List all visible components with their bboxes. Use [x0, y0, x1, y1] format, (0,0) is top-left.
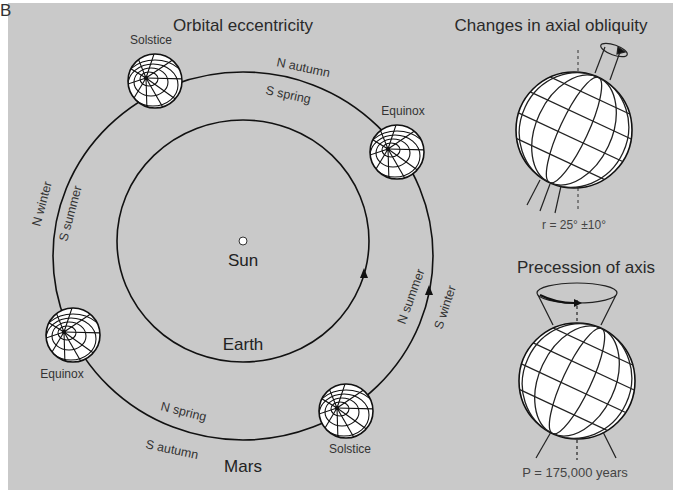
- season-s-summer: S summer: [56, 184, 84, 243]
- obliquity-formula: r = 25° ±10°: [542, 218, 606, 232]
- solstice-top-label: Solstice: [130, 33, 172, 47]
- season-n-spring: N spring: [159, 399, 208, 424]
- solstice-globe-bottom: [313, 381, 379, 446]
- precession-globe: [489, 299, 665, 463]
- equinox-globe-right: [364, 122, 430, 187]
- equinox-right-label: Equinox: [381, 104, 424, 118]
- obliquity-wobble-cylinder: [595, 41, 629, 80]
- solstice-bottom-label: Solstice: [329, 442, 371, 456]
- season-n-winter: N winter: [29, 180, 54, 228]
- precession-arrow-icon: [574, 299, 582, 307]
- axial-obliquity-title: Changes in axial obliquity: [455, 16, 648, 35]
- equinox-left-label: Equinox: [40, 367, 83, 381]
- orbital-eccentricity-section: Orbital eccentricity Sun Earth Mars Sols…: [29, 16, 458, 476]
- earth-orbit-arrow-icon: [360, 268, 368, 278]
- precession-formula: P = 175,000 years: [522, 465, 628, 480]
- earth-label: Earth: [223, 335, 264, 354]
- precession-section: Precession of axis P = 175,000 years: [489, 258, 665, 480]
- season-s-winter: S winter: [432, 284, 459, 331]
- mars-label: Mars: [224, 457, 262, 476]
- orbital-eccentricity-title: Orbital eccentricity: [173, 16, 313, 35]
- mars-orbital-diagram: Orbital eccentricity Sun Earth Mars Sols…: [0, 0, 681, 490]
- season-s-spring: S spring: [264, 83, 312, 106]
- mars-orbit-arrow-icon: [425, 285, 433, 295]
- obliquity-globe: [486, 48, 662, 212]
- sun-label: Sun: [228, 251, 258, 270]
- axial-obliquity-section: Changes in axial obliquity r = 25° ±10°: [455, 16, 662, 232]
- season-s-autumn: S autumn: [144, 437, 199, 462]
- equinox-globe-left: [40, 305, 106, 370]
- precession-title: Precession of axis: [517, 258, 655, 277]
- sun-marker: [239, 237, 247, 245]
